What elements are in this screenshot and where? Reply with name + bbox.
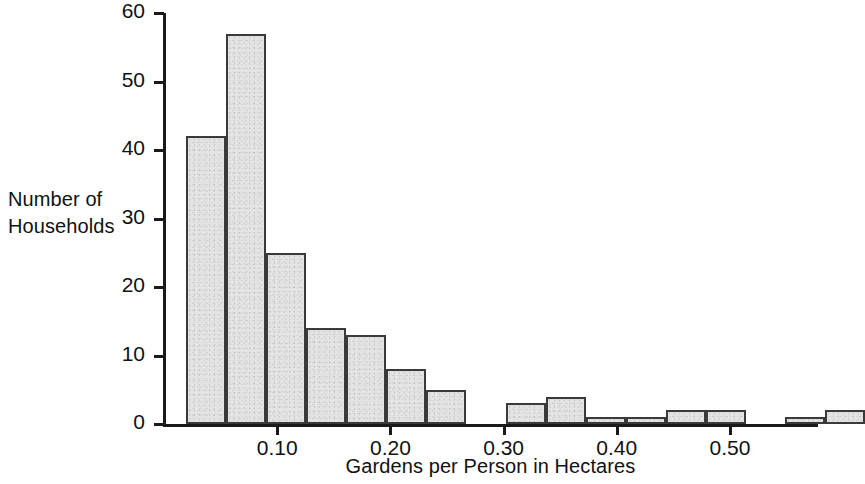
histogram-bar: [506, 403, 546, 424]
y-tick-mark: [154, 355, 164, 358]
histogram-bar: [706, 410, 746, 424]
x-tick-mark: [616, 427, 619, 435]
histogram-bar: [426, 390, 466, 424]
histogram-bar: [546, 397, 586, 424]
y-tick-label: 50: [99, 68, 145, 92]
histogram-bar: [306, 328, 346, 424]
histogram-bar: [186, 136, 226, 424]
histogram-bar: [825, 410, 865, 424]
y-tick-label: 40: [99, 136, 145, 160]
y-tick-label: 60: [99, 0, 145, 23]
histogram-bar: [386, 369, 426, 424]
x-tick-label: 0.10: [232, 436, 322, 460]
x-tick-mark: [503, 427, 506, 435]
x-tick-mark: [729, 427, 732, 435]
histogram-bar: [586, 417, 626, 424]
histogram-bar: [626, 417, 666, 424]
histogram-bar: [226, 34, 266, 424]
y-tick-mark: [154, 81, 164, 84]
histogram-bar: [266, 253, 306, 424]
x-tick-label: 0.20: [345, 436, 435, 460]
histogram-bar: [785, 417, 825, 424]
y-tick-mark: [154, 12, 164, 15]
histogram-bar: [346, 335, 386, 424]
y-tick-label: 10: [99, 342, 145, 366]
x-tick-mark: [389, 427, 392, 435]
y-tick-mark: [154, 149, 164, 152]
y-tick-mark: [154, 286, 164, 289]
y-tick-label: 20: [99, 273, 145, 297]
x-tick-label: 0.50: [685, 436, 775, 460]
x-axis-line: [163, 424, 818, 427]
histogram-bar: [666, 410, 706, 424]
y-tick-label: 0: [99, 410, 145, 434]
x-tick-mark: [276, 427, 279, 435]
y-tick-mark: [154, 218, 164, 221]
y-tick-label: 30: [99, 205, 145, 229]
y-tick-mark: [154, 423, 164, 426]
x-tick-label: 0.30: [459, 436, 549, 460]
x-tick-label: 0.40: [572, 436, 662, 460]
